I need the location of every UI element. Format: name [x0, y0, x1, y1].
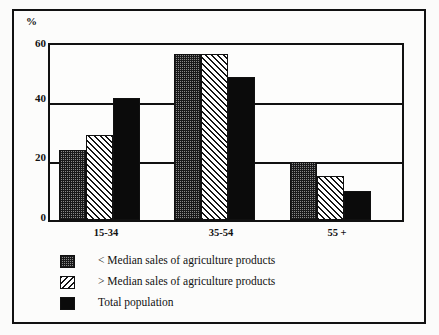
solid-black-swatch-icon: [60, 297, 75, 310]
legend-item-below-median: < Median sales of agriculture products: [60, 252, 390, 273]
y-tick-label-20: 20: [22, 152, 46, 162]
plot-area: [48, 43, 404, 222]
y-tick-label-0: 0: [22, 212, 46, 222]
x-tick-label-35-54: 35-54: [191, 227, 251, 238]
y-tick-label-60: 60: [22, 38, 46, 48]
bar-35-54-total-population: [228, 77, 255, 220]
legend-label-above-median: > Median sales of agriculture products: [98, 275, 275, 287]
bar-55plus-total-population: [344, 191, 371, 220]
diagonal-hatch-swatch-icon: [60, 276, 75, 289]
chart-legend: < Median sales of agriculture products >…: [60, 252, 390, 315]
screenshot-root: % 60 40 20 0 15-34 35-54 55 +: [0, 0, 439, 335]
bar-15-34-below-median: [59, 150, 86, 220]
legend-item-total-population: Total population: [60, 294, 390, 315]
y-tick-label-40: 40: [22, 93, 46, 103]
bar-15-34-above-median: [86, 135, 113, 220]
legend-label-below-median: < Median sales of agriculture products: [98, 254, 275, 266]
legend-item-above-median: > Median sales of agriculture products: [60, 273, 390, 294]
bar-35-54-below-median: [174, 54, 201, 220]
bar-15-34-total-population: [113, 98, 140, 220]
dotted-gray-swatch-icon: [60, 255, 75, 268]
legend-label-total-population: Total population: [98, 296, 174, 308]
x-tick-label-15-34: 15-34: [76, 227, 136, 238]
bar-35-54-above-median: [201, 54, 228, 220]
bar-55plus-below-median: [290, 162, 317, 220]
y-axis-unit-label: %: [26, 15, 37, 27]
bar-55plus-above-median: [317, 176, 344, 220]
x-tick-label-55-plus: 55 +: [307, 227, 367, 238]
